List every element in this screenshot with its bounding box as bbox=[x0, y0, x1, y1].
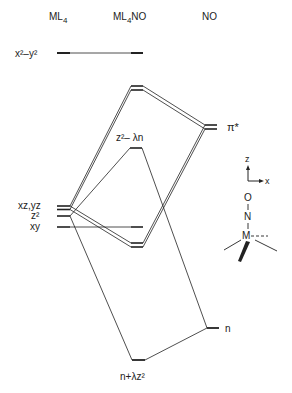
label-x2-y2: x²–y² bbox=[15, 48, 38, 59]
atom-n: N bbox=[244, 211, 251, 222]
label-z2-lambda-n: z²– λn bbox=[116, 132, 143, 143]
label-n-lambda-z2: n+λz² bbox=[120, 371, 145, 382]
ligand-bonds bbox=[224, 236, 277, 262]
header-ml4: ML4 bbox=[49, 11, 68, 25]
label-z2: z² bbox=[31, 210, 40, 221]
axis-indicator bbox=[246, 165, 264, 183]
axis-z-label: z bbox=[245, 154, 250, 164]
atom-o: O bbox=[244, 192, 252, 203]
header-no: NO bbox=[202, 11, 217, 22]
correlation-lines bbox=[57, 53, 219, 360]
label-pi-star: π* bbox=[227, 121, 240, 133]
header-ml4no: ML4NO bbox=[113, 11, 147, 25]
atom-m: M bbox=[242, 230, 250, 241]
label-xy: xy bbox=[30, 221, 40, 232]
axis-x-label: x bbox=[265, 176, 270, 186]
mo-diagram: ML4 ML4NO NO bbox=[0, 0, 292, 393]
label-n: n bbox=[225, 323, 231, 334]
